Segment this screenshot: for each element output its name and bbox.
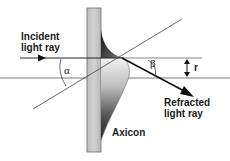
beta-label: β (150, 57, 156, 69)
alpha-label: α (64, 64, 70, 76)
axicon-label: Axicon (112, 127, 145, 138)
r-arrow-down-icon (184, 72, 190, 77)
axicon-upper (101, 30, 124, 58)
r-arrow-up-icon (184, 59, 190, 64)
refracted-label: Refracted light ray (164, 97, 210, 119)
glass-plate (87, 8, 101, 152)
incident-arrow-icon (38, 55, 46, 62)
incident-label: Incident light ray (21, 31, 60, 53)
r-label: r (194, 62, 198, 73)
refracted-arrow-icon (180, 86, 194, 97)
axicon-diagram: Incident light ray Refracted light ray A… (0, 0, 230, 161)
